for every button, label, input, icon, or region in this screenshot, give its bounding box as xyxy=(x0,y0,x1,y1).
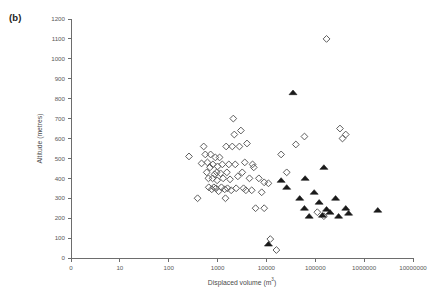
figure-panel-b: (b) 010020030040050060070080090010001100… xyxy=(0,0,442,299)
data-point-diamond xyxy=(301,133,308,140)
y-tick-label: 300 xyxy=(55,194,66,201)
y-tick-label: 600 xyxy=(55,135,66,142)
y-tick-label: 1100 xyxy=(52,35,66,42)
data-point-diamond xyxy=(205,175,212,182)
scatter-plot: 0100200300400500600700800900100011001200… xyxy=(0,0,442,299)
data-point-triangle xyxy=(300,206,308,211)
data-point-diamond xyxy=(198,160,205,167)
data-point-diamond xyxy=(230,115,237,122)
data-point-triangle xyxy=(310,190,318,195)
x-tick-label: 1000 xyxy=(211,264,225,271)
data-point-diamond xyxy=(337,125,344,132)
data-point-triangle xyxy=(277,178,285,183)
data-point-triangle xyxy=(289,90,297,95)
data-point-diamond xyxy=(278,151,285,158)
data-point-diamond xyxy=(244,140,251,147)
data-point-triangle xyxy=(342,206,350,211)
data-point-diamond xyxy=(241,159,248,166)
data-point-triangle xyxy=(315,200,323,205)
x-tick-label: 10000000 xyxy=(399,264,427,271)
data-point-diamond xyxy=(258,189,265,196)
series-filled-triangle xyxy=(264,90,381,246)
y-tick-label: 400 xyxy=(55,175,66,182)
data-point-diamond xyxy=(323,36,330,43)
series-open-diamond xyxy=(186,36,350,254)
data-point-triangle xyxy=(296,196,304,201)
data-point-triangle xyxy=(345,211,353,216)
x-tick-label: 10 xyxy=(116,264,123,271)
data-point-diamond xyxy=(223,169,230,176)
y-tick-label: 0 xyxy=(62,254,66,261)
data-point-triangle xyxy=(335,214,343,219)
data-point-diamond xyxy=(194,195,201,202)
data-point-triangle xyxy=(301,176,309,181)
x-axis-title: Displaced volume (m3) xyxy=(208,276,276,287)
data-point-diamond xyxy=(339,135,346,142)
x-tick-label: 1000000 xyxy=(352,264,377,271)
data-point-diamond xyxy=(342,131,349,138)
data-point-diamond xyxy=(283,169,290,176)
data-point-triangle xyxy=(374,208,382,213)
y-tick-label: 1000 xyxy=(51,55,65,62)
data-point-triangle xyxy=(320,165,328,170)
data-point-diamond xyxy=(200,143,207,150)
data-point-diamond xyxy=(236,143,243,150)
y-tick-label: 900 xyxy=(55,75,66,82)
data-point-diamond xyxy=(227,176,234,183)
data-point-diamond xyxy=(314,209,321,216)
x-tick-label: 0 xyxy=(69,264,73,271)
data-point-diamond xyxy=(255,175,262,182)
data-point-diamond xyxy=(249,161,256,168)
data-point-diamond xyxy=(250,164,257,171)
y-tick-label: 500 xyxy=(55,155,66,162)
data-point-diamond xyxy=(261,205,268,212)
axis-titles: Displaced volume (m3)Altitude (metres) xyxy=(36,114,276,287)
y-tick-label: 1200 xyxy=(51,15,65,22)
y-tick-label: 100 xyxy=(55,234,66,241)
data-point-diamond xyxy=(237,127,244,134)
data-point-diamond xyxy=(186,153,193,160)
data-point-diamond xyxy=(222,195,229,202)
y-axis-title: Altitude (metres) xyxy=(36,114,44,164)
data-point-diamond xyxy=(273,247,280,254)
data-point-diamond xyxy=(231,131,238,138)
y-tick-label: 800 xyxy=(55,95,66,102)
y-tick-label: 200 xyxy=(55,214,66,221)
x-tick-label: 100000 xyxy=(305,264,326,271)
data-point-diamond xyxy=(252,205,259,212)
data-point-triangle xyxy=(305,214,313,219)
x-tick-label: 100 xyxy=(164,264,175,271)
y-tick-label: 700 xyxy=(55,115,66,122)
data-point-diamond xyxy=(216,154,223,161)
x-tick-label: 10000 xyxy=(258,264,276,271)
data-point-triangle xyxy=(283,185,291,190)
data-point-diamond xyxy=(267,236,274,243)
data-point-diamond xyxy=(246,175,253,182)
data-point-triangle xyxy=(332,196,340,201)
data-point-diamond xyxy=(292,141,299,148)
data-markers xyxy=(186,36,382,254)
